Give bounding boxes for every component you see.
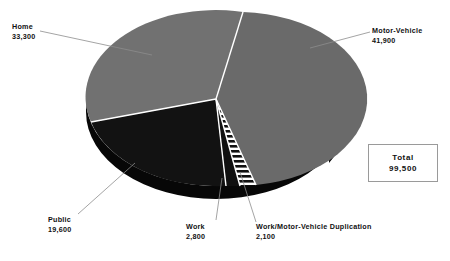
total-label: Total bbox=[392, 152, 414, 163]
slice-label-public-value: 19,600 bbox=[48, 225, 71, 235]
pie-top-face bbox=[86, 10, 368, 186]
slice-label-public-name: Public bbox=[48, 215, 71, 224]
pie-chart-figure: Home 33,300 Motor-Vehicle 41,900 Public … bbox=[0, 0, 450, 261]
leader-line-public bbox=[78, 163, 135, 214]
slice-label-work: Work 2,800 bbox=[186, 222, 205, 241]
slice-label-public: Public 19,600 bbox=[48, 215, 71, 234]
slice-label-duplication-name: Work/Motor-Vehicle Duplication bbox=[256, 222, 372, 231]
slice-label-motor-vehicle: Motor-Vehicle 41,900 bbox=[372, 26, 422, 45]
slice-label-motor-vehicle-value: 41,900 bbox=[372, 36, 422, 46]
slice-label-home-name: Home bbox=[12, 22, 33, 31]
slice-label-duplication: Work/Motor-Vehicle Duplication 2,100 bbox=[256, 222, 372, 241]
total-value: 99,500 bbox=[389, 163, 417, 174]
slice-label-duplication-value: 2,100 bbox=[256, 232, 372, 242]
total-box: Total 99,500 bbox=[368, 144, 438, 182]
slice-label-home-value: 33,300 bbox=[12, 32, 35, 42]
slice-label-motor-vehicle-name: Motor-Vehicle bbox=[372, 26, 422, 35]
slice-label-work-value: 2,800 bbox=[186, 232, 205, 242]
slice-label-work-name: Work bbox=[186, 222, 205, 231]
slice-label-home: Home 33,300 bbox=[12, 22, 35, 41]
